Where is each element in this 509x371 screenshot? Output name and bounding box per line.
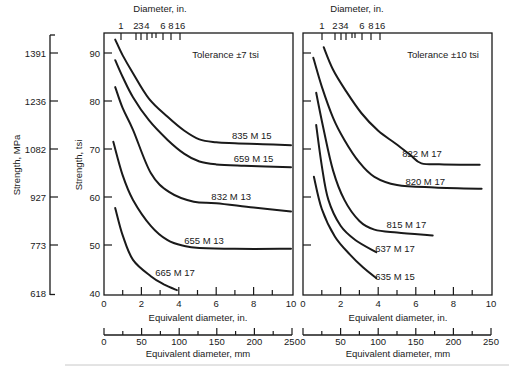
curve-label: 659 M 15	[234, 153, 274, 164]
mm-tick-label: 150	[408, 336, 424, 347]
mm-tick-label: 50	[335, 336, 346, 347]
curve-label: 637 M 17	[375, 243, 415, 254]
x-tick-label: 0	[101, 298, 106, 309]
tolerance-label: Tolerance ±10 tsi	[407, 49, 479, 60]
x-tick-label: 4	[176, 298, 181, 309]
top-x-tick-label: 4	[144, 20, 149, 31]
mpa-tick-label: 1082	[25, 144, 46, 155]
top-x-tick-label: 4	[343, 20, 348, 31]
x-tick-label: 10	[486, 298, 497, 309]
top-x-tick-label: 8	[368, 20, 373, 31]
strength-vs-diameter-figure: 618773927108212361391 Strength, MPa Stre…	[0, 0, 509, 371]
mpa-tick-label: 927	[30, 192, 46, 203]
x-tick-label: 6	[413, 298, 418, 309]
top-x-tick-label: 3	[138, 20, 143, 31]
x-tick-label: 2	[139, 298, 144, 309]
left-mm-axis-title: Equivalent diameter, mm	[146, 348, 251, 359]
right-in-axis-title: Equivalent diameter, in.	[349, 312, 448, 323]
mm-tick-label: 0	[101, 336, 106, 347]
curve-label: 820 M 17	[405, 176, 445, 187]
curve-label: 665 M 17	[155, 267, 195, 278]
curve-label: 655 M 13	[184, 235, 224, 246]
top-x-tick-label: 8	[168, 20, 173, 31]
mm-tick-label: 100	[171, 336, 187, 347]
mm-tick-label: 100	[370, 336, 386, 347]
mpa-tick-label: 1236	[25, 96, 46, 107]
top-x-tick-label: 1	[118, 20, 123, 31]
x-tick-label: 2	[338, 298, 343, 309]
mpa-tick-label: 1391	[25, 48, 46, 59]
tsi-axis-title: Strength, tsi	[73, 140, 84, 191]
x-tick-label: 8	[251, 298, 256, 309]
figure-canvas: 618773927108212361391 Strength, MPa Stre…	[0, 0, 509, 371]
top-x-tick-label: 16	[375, 20, 386, 31]
curve-label: 822 M 17	[402, 148, 442, 159]
top-x-tick-label: 2	[332, 20, 337, 31]
x-tick-label: 10	[286, 298, 297, 309]
mpa-tick-label: 618	[30, 288, 46, 299]
curve-822-m-17	[324, 47, 480, 165]
y-tick-label: 80	[89, 96, 100, 107]
y-tick-label: 70	[89, 144, 100, 155]
right-panel-tolerance-10: 024681012346816050100150200250Tolerance …	[300, 20, 499, 347]
right-mm-axis-title: Equivalent diameter, mm	[346, 348, 451, 359]
mm-tick-label: 200	[445, 336, 461, 347]
mm-tick-label: 250	[483, 336, 499, 347]
mpa-tick-label: 773	[30, 240, 46, 251]
curve-label: 815 M 17	[387, 219, 427, 230]
curve-820-m-17	[313, 58, 481, 189]
curve-832-m-13	[115, 87, 291, 211]
mpa-axis-title: Strength, MPa	[11, 134, 22, 195]
left-panel-tolerance-7: 4050607080900246810123468160501001502002…	[89, 20, 300, 347]
mm-tick-label: 0	[300, 336, 305, 347]
mm-tick-label: 250	[284, 336, 300, 347]
top-x-tick-label: 1	[319, 20, 324, 31]
tolerance-label: Tolerance ±7 tsi	[192, 49, 258, 60]
top-x-tick-label: 16	[175, 20, 186, 31]
right-top-axis-title: Diameter, in.	[330, 3, 383, 14]
y-tick-label: 60	[89, 192, 100, 203]
x-tick-label: 6	[214, 298, 219, 309]
y-tick-label: 90	[89, 48, 100, 59]
x-tick-label: 4	[376, 298, 381, 309]
top-x-tick-label: 6	[160, 20, 165, 31]
curve-label: 832 M 13	[211, 191, 251, 202]
x-tick-label: 0	[300, 298, 305, 309]
curve-label: 635 M 15	[375, 271, 415, 282]
y-tick-label: 50	[89, 240, 100, 251]
y-tick-label: 40	[89, 288, 100, 299]
mm-tick-label: 50	[136, 336, 147, 347]
x-tick-label: 8	[451, 298, 456, 309]
mpa-axis: 618773927108212361391	[25, 35, 58, 299]
mm-tick-label: 200	[246, 336, 262, 347]
curve-label: 835 M 15	[232, 130, 272, 141]
top-x-tick-label: 6	[359, 20, 364, 31]
left-in-axis-title: Equivalent diameter, in.	[149, 312, 248, 323]
left-top-axis-title: Diameter, in.	[133, 3, 186, 14]
mm-tick-label: 150	[209, 336, 225, 347]
